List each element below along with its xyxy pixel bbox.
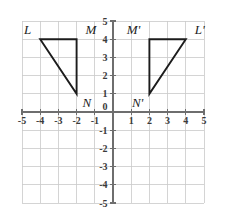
x-tick-label: -5 xyxy=(18,115,26,126)
y-tick-label: -1 xyxy=(99,125,107,136)
x-tick-label: 4 xyxy=(183,115,188,126)
coordinate-plot: -5-4-3-2-11234554321-1-2-3-4-50 LMNM'L'N… xyxy=(0,0,226,213)
y-tick-label: -3 xyxy=(99,161,107,172)
vertex-label: L xyxy=(23,22,31,37)
vertex-label: L' xyxy=(194,22,205,37)
x-tick-label: 1 xyxy=(129,115,134,126)
origin-tick-label: 0 xyxy=(103,101,108,112)
x-tick-label: 5 xyxy=(202,115,207,126)
coordinate-plane-figure: -5-4-3-2-11234554321-1-2-3-4-50 LMNM'L'N… xyxy=(0,0,226,213)
y-tick-label: 5 xyxy=(103,16,108,27)
y-tick-label: 3 xyxy=(103,52,108,63)
y-tick-label: 4 xyxy=(103,34,108,45)
vertex-label: N' xyxy=(131,95,144,110)
vertex-label: N xyxy=(82,95,93,110)
x-tick-label: -2 xyxy=(72,115,80,126)
y-tick-label: -4 xyxy=(99,179,107,190)
x-tick-label: 3 xyxy=(165,115,170,126)
y-tick-label: 1 xyxy=(103,88,108,99)
x-tick-label: -3 xyxy=(54,115,62,126)
vertex-label: M' xyxy=(126,22,141,37)
y-tick-label: -5 xyxy=(99,198,107,209)
y-tick-label: 2 xyxy=(103,70,108,81)
axes xyxy=(22,21,204,203)
y-tick-label: -2 xyxy=(99,143,107,154)
vertex-label: M xyxy=(85,22,98,37)
x-tick-label: -4 xyxy=(36,115,44,126)
x-tick-label: 2 xyxy=(147,115,152,126)
x-tick-label: -1 xyxy=(91,115,99,126)
